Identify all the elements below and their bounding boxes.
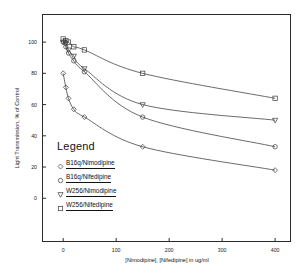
- legend-item-label: W256/Nimodipine: [66, 186, 116, 197]
- x-tick-label: 400: [271, 247, 280, 253]
- legend-item-label: B16q/Nimodipine: [66, 158, 115, 169]
- legend-item-1: B16q/Nimodipine: [55, 156, 151, 170]
- legend-item-3: W256/Nimodipine: [55, 184, 151, 198]
- x-tick-label: 0: [62, 247, 65, 253]
- legend-item-label: B16q/Nifedipine: [66, 172, 111, 183]
- legend-item-2: B16q/Nifedipine: [55, 170, 151, 184]
- y-axis-title: Light Transmission, % of Control: [14, 88, 20, 169]
- chart-legend: Legend B16q/NimodipineB16q/NifedipineW25…: [55, 140, 151, 212]
- legend-item-label: W256/Nifedipine: [66, 200, 113, 211]
- series-line: [63, 39, 275, 98]
- series-line: [63, 42, 275, 147]
- legend-title: Legend: [57, 140, 151, 152]
- legend-item-4: W256/Nifedipine: [55, 198, 151, 212]
- triangle-down-marker-icon: [55, 186, 66, 197]
- square-marker-icon: [55, 200, 66, 211]
- diamond-marker-icon: [55, 158, 66, 169]
- y-tick-label: 40: [31, 133, 37, 139]
- chart-figure: 0100200300400 020406080100 [Nimodipine],…: [0, 0, 307, 275]
- y-tick-label: 100: [28, 39, 37, 45]
- series-2: [61, 40, 277, 149]
- y-tick-label: 80: [31, 70, 37, 76]
- y-tick-label: 60: [31, 102, 37, 108]
- legend-rows: B16q/NimodipineB16q/NifedipineW256/Nimod…: [55, 156, 151, 212]
- y-tick-label: 0: [34, 195, 37, 201]
- x-axis-title: [Nimodipine], [Nifedipine] in ug/ml: [125, 257, 208, 263]
- y-tick-label: 20: [31, 164, 37, 170]
- y-axis-ticks: 020406080100: [28, 39, 46, 201]
- circle-marker-icon: [55, 172, 66, 183]
- x-axis-ticks: 0100200300400: [62, 238, 280, 253]
- x-tick-label: 200: [165, 247, 174, 253]
- x-tick-label: 100: [112, 247, 121, 253]
- series-line: [63, 42, 275, 120]
- data-point-triangle-down-icon: [273, 118, 278, 123]
- plot-canvas: 0100200300400 020406080100 [Nimodipine],…: [0, 0, 307, 275]
- series-3: [61, 40, 278, 123]
- x-tick-label: 300: [218, 247, 227, 253]
- series-4: [61, 37, 277, 101]
